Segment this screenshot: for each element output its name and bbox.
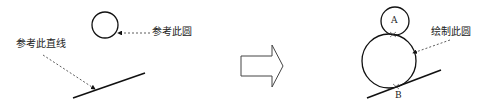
reference-line-label: 参考此直线 [16,39,66,49]
reference-line [73,73,145,98]
drawn-circle-label: 绘制此圆 [431,27,471,37]
line-pointer-arrow [43,55,95,89]
drawn-circle-pointer-arrow [413,40,450,53]
tangent-line [367,70,441,98]
diagram-canvas [0,0,483,108]
reference-circle [92,12,118,38]
point-a-label: A [391,16,398,25]
drawn-circle [362,34,416,88]
reference-circle-label: 参考此圆 [152,27,192,37]
point-b-label: B [395,91,402,100]
transform-arrow-icon [241,45,283,87]
